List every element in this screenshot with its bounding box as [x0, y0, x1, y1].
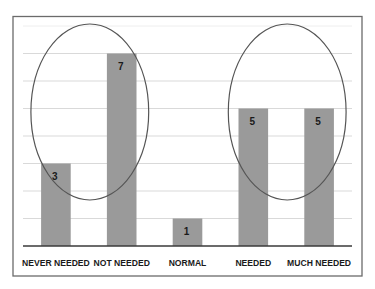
data-labels: 37155 [52, 61, 321, 237]
data-label: 1 [184, 226, 190, 237]
bar-not-needed [107, 54, 137, 247]
x-tick-label: NEVER NEEDED [22, 258, 90, 268]
data-label: 5 [315, 116, 321, 127]
data-label: 7 [118, 61, 124, 72]
x-tick-label: NEEDED [235, 258, 271, 268]
gridlines [23, 26, 352, 219]
x-tick-label: NOT NEEDED [94, 258, 150, 268]
annotations [31, 24, 346, 200]
x-tick-labels: NEVER NEEDEDNOT NEEDEDNORMALNEEDEDMUCH N… [22, 258, 351, 268]
x-tick-label: NORMAL [169, 258, 207, 268]
bar-much-needed [304, 109, 334, 247]
bar-chart: 37155 NEVER NEEDEDNOT NEEDEDNORMALNEEDED… [0, 0, 375, 289]
x-tick-label: MUCH NEEDED [287, 258, 351, 268]
bars [41, 54, 334, 247]
data-label: 5 [250, 116, 256, 127]
bar-needed [238, 109, 268, 247]
